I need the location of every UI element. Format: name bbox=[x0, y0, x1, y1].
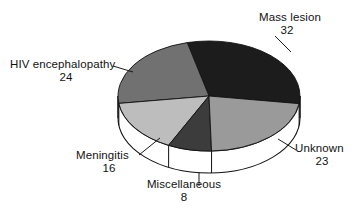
leader-line-mass-lesion bbox=[275, 36, 291, 52]
pie-label-meningitis-name: Meningitis bbox=[76, 149, 148, 162]
pie-label-miscellaneous: Miscellaneous 8 bbox=[140, 178, 228, 204]
pie-label-meningitis-value: 16 bbox=[76, 162, 148, 175]
pie-label-miscellaneous-value: 8 bbox=[140, 191, 228, 204]
pie-label-hiv-encephalopathy: HIV encephalopathy 24 bbox=[10, 58, 136, 84]
pie-label-miscellaneous-name: Miscellaneous bbox=[140, 178, 228, 191]
pie-label-meningitis: Meningitis 16 bbox=[76, 149, 148, 175]
pie-label-mass-lesion: Mass lesion 32 bbox=[251, 11, 329, 37]
pie-top-face bbox=[118, 41, 300, 151]
pie-label-mass-lesion-value: 32 bbox=[251, 24, 329, 37]
pie-label-unknown: Unknown 23 bbox=[295, 142, 361, 168]
pie-label-unknown-name: Unknown bbox=[295, 142, 361, 155]
pie-chart-figure: Mass lesion 32 HIV encephalopathy 24 Men… bbox=[0, 0, 364, 212]
pie-label-unknown-value: 23 bbox=[295, 155, 361, 168]
pie-label-hiv-encephalopathy-value: 24 bbox=[10, 71, 136, 84]
pie-label-mass-lesion-name: Mass lesion bbox=[251, 11, 329, 24]
pie-label-hiv-encephalopathy-name: HIV encephalopathy bbox=[10, 58, 136, 71]
